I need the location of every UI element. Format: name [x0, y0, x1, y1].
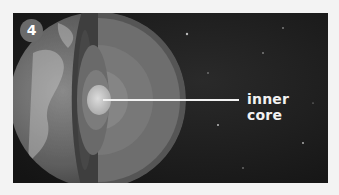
earth-cutaway-figure: 4 inner core — [13, 13, 328, 183]
inner-core-label: inner core — [247, 91, 328, 123]
step-badge: 4 — [20, 19, 43, 42]
